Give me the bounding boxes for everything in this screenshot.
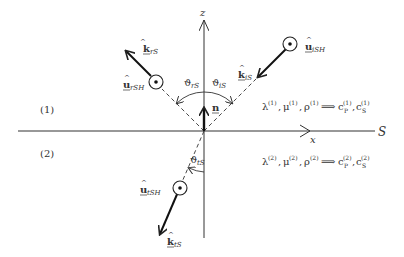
svg-text:S: S: [362, 162, 366, 169]
reflected-ray-dashed: [162, 89, 204, 131]
svg-text:rS: rS: [150, 48, 158, 56]
svg-text:(1): (1): [361, 99, 370, 106]
reflected-u-sh-icon: [149, 75, 163, 89]
svg-text:,: ,: [299, 101, 302, 112]
svg-text:(1): (1): [343, 99, 352, 106]
transmitted-u-label: u ^ tSH: [140, 179, 162, 197]
svg-text:(2): (2): [289, 154, 298, 161]
reflected-angle-label: ϑ rS: [184, 77, 199, 90]
svg-text:(1): (1): [268, 99, 277, 106]
svg-text:P: P: [344, 162, 348, 169]
svg-text:tS: tS: [174, 241, 182, 249]
svg-text:^: ^: [141, 179, 147, 187]
svg-text:⟹: ⟹: [321, 101, 335, 112]
transmitted-k-arrow: [160, 192, 178, 234]
transmitted-angle-label: ϑ tS: [190, 154, 205, 167]
svg-text:^: ^: [168, 231, 174, 239]
incident-k-arrow: [258, 49, 286, 77]
svg-text:iS: iS: [219, 82, 226, 90]
transmitted-u-sh-icon: [173, 181, 187, 195]
medium-1-label: (1): [40, 104, 54, 115]
svg-text:(2): (2): [268, 154, 277, 161]
z-axis-label: z: [199, 7, 206, 18]
x-axis-label: x: [310, 134, 316, 145]
svg-text:,: ,: [299, 156, 302, 167]
medium-2-relation: λ (2) , μ (2) , ρ (2) ⟹ c (2) P , c (2) …: [262, 154, 370, 169]
svg-text:^: ^: [124, 74, 130, 82]
svg-text:(2): (2): [310, 154, 319, 161]
transmitted-angle-arc: [189, 168, 204, 172]
svg-text:(2): (2): [361, 154, 370, 161]
incident-angle-label: ϑ iS: [212, 77, 226, 90]
incident-u-label: u ^ iSH: [305, 36, 326, 54]
transmitted-k-label: k ^ tS: [167, 231, 182, 249]
svg-text:^: ^: [306, 36, 312, 44]
svg-text:(1): (1): [310, 99, 319, 106]
svg-text:S: S: [362, 107, 366, 114]
svg-text:rS: rS: [191, 82, 199, 90]
svg-text:,: ,: [278, 101, 281, 112]
svg-text:tSH: tSH: [147, 189, 162, 197]
diagram-canvas: z x S (1) (2) n k ^ rS u ^ rSH ϑ rS k ^ …: [0, 0, 404, 257]
svg-text:,: ,: [352, 101, 355, 112]
svg-text:^: ^: [140, 38, 146, 46]
svg-text:iS: iS: [245, 74, 252, 82]
medium-1-relation: λ (1) , μ (1) , ρ (1) ⟹ c (1) P , c (1) …: [262, 99, 370, 114]
svg-text:P: P: [344, 107, 348, 114]
reflected-k-arrow: [126, 51, 151, 76]
svg-text:,: ,: [352, 156, 355, 167]
svg-text:tS: tS: [197, 159, 205, 167]
interface-label: S: [378, 125, 386, 139]
svg-text:n: n: [212, 102, 220, 113]
normal-vector-label: n: [212, 102, 220, 113]
reflected-u-label: u ^ rSH: [123, 74, 145, 92]
svg-text:iSH: iSH: [312, 46, 326, 54]
reflected-k-label: k ^ rS: [140, 38, 158, 56]
reflected-angle-arc: [177, 92, 204, 103]
svg-text:,: ,: [278, 156, 281, 167]
incident-u-sh-icon: [283, 37, 297, 51]
svg-text:(1): (1): [289, 99, 298, 106]
svg-text:(2): (2): [343, 154, 352, 161]
svg-text:⟹: ⟹: [321, 156, 335, 167]
svg-text:rSH: rSH: [130, 84, 145, 92]
svg-text:^: ^: [239, 64, 245, 72]
incident-k-label: k ^ iS: [238, 64, 252, 82]
medium-2-label: (2): [40, 148, 54, 159]
